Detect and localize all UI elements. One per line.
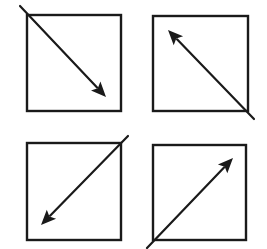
arrow-shaft	[147, 167, 224, 248]
panel-bottom-left	[27, 136, 128, 240]
arrow-shaft	[50, 136, 128, 216]
panel-top-right	[153, 16, 254, 119]
panel-top-left	[20, 6, 121, 111]
arrow-shaft	[177, 39, 254, 119]
panel-bottom-right	[147, 145, 246, 248]
diagonal-arrows-diagram	[0, 0, 267, 249]
arrow-shaft	[20, 6, 97, 88]
